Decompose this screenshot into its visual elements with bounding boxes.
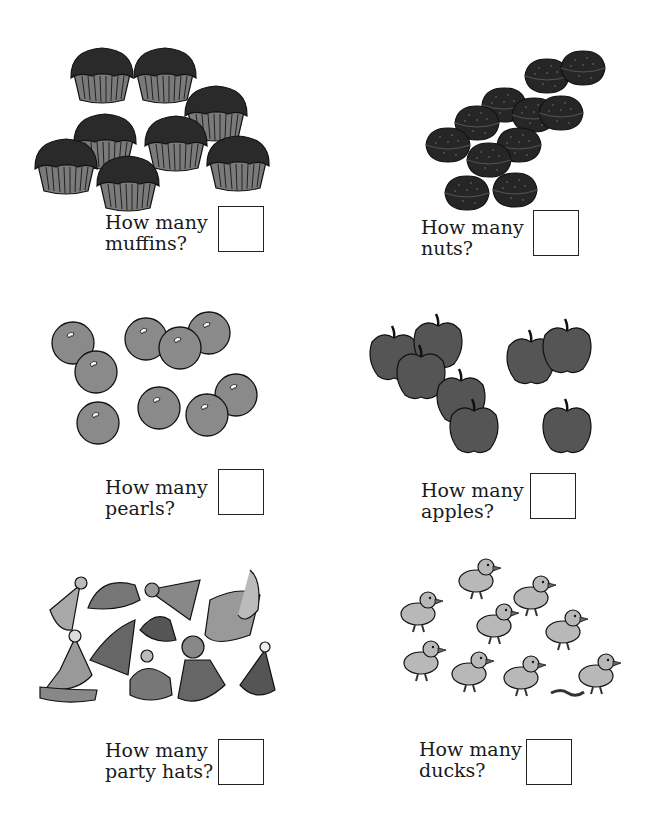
party-hats-answer-box[interactable] bbox=[218, 739, 264, 785]
nuts-answer-box[interactable] bbox=[533, 210, 579, 256]
muffins-answer-box[interactable] bbox=[218, 206, 264, 252]
muffins-section: How many muffins? bbox=[0, 0, 326, 270]
question-line-2: party hats? bbox=[105, 761, 213, 782]
question-line-1: How many bbox=[421, 480, 524, 501]
nuts-question: How many nuts? bbox=[421, 217, 524, 259]
apples-section: How many apples? bbox=[326, 270, 653, 540]
question-line-2: apples? bbox=[421, 501, 524, 522]
apples-answer-box[interactable] bbox=[530, 473, 576, 519]
question-line-2: ducks? bbox=[419, 760, 522, 781]
ducks-question: How many ducks? bbox=[419, 739, 522, 781]
pearls-answer-box[interactable] bbox=[218, 469, 264, 515]
party-hats-question: How many party hats? bbox=[105, 740, 213, 782]
apples-question: How many apples? bbox=[421, 480, 524, 522]
nuts-section: How many nuts? bbox=[326, 0, 653, 270]
ducks-answer-box[interactable] bbox=[526, 739, 572, 785]
ducks-section: How many ducks? bbox=[326, 540, 653, 817]
question-line-1: How many bbox=[105, 212, 208, 233]
question-line-1: How many bbox=[105, 740, 213, 761]
question-line-2: muffins? bbox=[105, 233, 208, 254]
question-line-1: How many bbox=[105, 477, 208, 498]
pearls-question: How many pearls? bbox=[105, 477, 208, 519]
question-line-2: nuts? bbox=[421, 238, 524, 259]
pearls-section: How many pearls? bbox=[0, 270, 326, 540]
question-line-1: How many bbox=[419, 739, 522, 760]
muffins-question: How many muffins? bbox=[105, 212, 208, 254]
question-line-2: pearls? bbox=[105, 498, 208, 519]
party-hats-section: How many party hats? bbox=[0, 540, 326, 817]
question-line-1: How many bbox=[421, 217, 524, 238]
